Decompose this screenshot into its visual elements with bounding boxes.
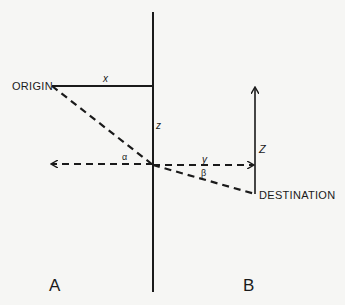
destination-label: DESTINATION: [259, 189, 335, 201]
alpha-label: α: [122, 152, 127, 162]
z-right-label: Z: [258, 143, 267, 155]
y-label: y: [201, 154, 208, 165]
z-left-label: z: [155, 120, 161, 131]
panel-a-label: A: [49, 276, 61, 295]
panel-b-label: B: [243, 276, 254, 295]
beta-label: β: [201, 168, 206, 178]
incident-ray: [52, 86, 153, 165]
x-label: x: [102, 73, 109, 84]
origin-label: ORIGIN: [12, 80, 53, 92]
refraction-geometry-diagram: ORIGIN x z α y β Z DESTINATION A B: [0, 0, 345, 305]
